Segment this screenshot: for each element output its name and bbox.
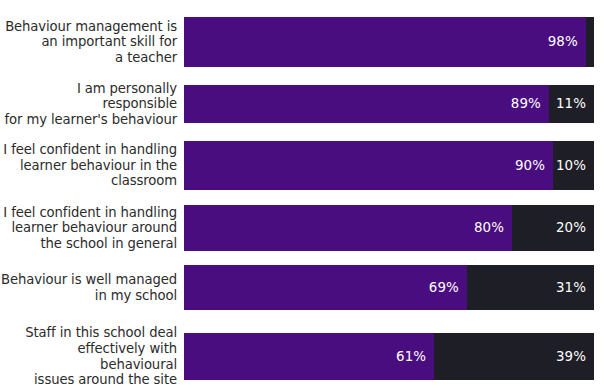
bar-segment-agree: 69% [184, 265, 467, 310]
category-label: I feel confident in handling learner beh… [0, 142, 184, 189]
bar-value-disagree: 20% [556, 221, 594, 234]
bar-segment-disagree: 2% [586, 17, 594, 67]
bar-segment-disagree: 10% [553, 141, 594, 190]
category-label: I am personally responsible for my learn… [0, 81, 184, 128]
bar-value-agree: 89% [511, 97, 549, 110]
bar-segment-disagree: 20% [512, 205, 594, 251]
bar-segment-disagree: 39% [434, 333, 594, 380]
category-label: Behaviour management is an important ski… [0, 19, 184, 66]
bar-segment-disagree: 11% [549, 85, 594, 123]
bar-segment-agree: 90% [184, 141, 553, 190]
category-label: Staff in this school deal effectively wi… [0, 325, 184, 387]
bar-track: 89%11% [184, 85, 604, 123]
chart-row: Behaviour is well managed in my school69… [0, 265, 604, 310]
bar-segment-agree: 89% [184, 85, 549, 123]
bar-value-agree: 90% [515, 159, 553, 172]
stacked-bar-chart: Behaviour management is an important ski… [0, 0, 604, 388]
chart-row: Staff in this school deal effectively wi… [0, 333, 604, 380]
bar-value-agree: 61% [396, 350, 434, 363]
bar-track: 61%39% [184, 333, 604, 380]
chart-row: I feel confident in handling learner beh… [0, 205, 604, 251]
bar-track: 69%31% [184, 265, 604, 310]
bar-segment-agree: 98% [184, 17, 586, 67]
bar-track: 80%20% [184, 205, 604, 251]
bar-value-agree: 69% [429, 281, 467, 294]
bar-segment-agree: 80% [184, 205, 512, 251]
bar-value-disagree: 11% [556, 97, 594, 110]
bar-value-agree: 80% [474, 221, 512, 234]
chart-row: Behaviour management is an important ski… [0, 17, 604, 67]
bar-track: 98%2% [184, 17, 604, 67]
bar-segment-agree: 61% [184, 333, 434, 380]
bar-value-disagree: 39% [556, 350, 594, 363]
bar-value-agree: 98% [548, 35, 586, 48]
category-label: I feel confident in handling learner beh… [0, 205, 184, 252]
bar-value-disagree: 10% [556, 159, 594, 172]
bar-value-disagree: 2% [594, 35, 604, 48]
bar-track: 90%10% [184, 141, 604, 190]
chart-row: I am personally responsible for my learn… [0, 85, 604, 123]
category-label: Behaviour is well managed in my school [0, 272, 184, 303]
bar-segment-disagree: 31% [467, 265, 594, 310]
chart-row: I feel confident in handling learner beh… [0, 141, 604, 190]
bar-value-disagree: 31% [556, 281, 594, 294]
